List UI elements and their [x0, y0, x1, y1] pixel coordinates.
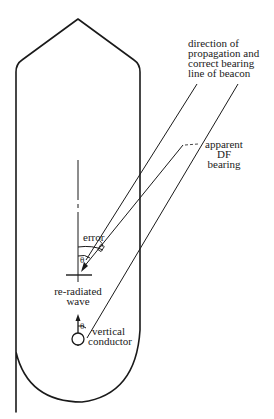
label-theta-lower: θ	[80, 321, 84, 331]
label-reradiated-line2: wave	[48, 296, 108, 306]
label-apparent-df-bearing: apparent DF bearing	[202, 139, 246, 169]
label-conductor-line2: conductor	[88, 336, 132, 346]
label-theta-upper: θ	[80, 255, 84, 265]
label-vertical-conductor: vertical conductor	[88, 326, 132, 346]
vertical-conductor	[72, 333, 84, 345]
label-propagation-line4: line of beacon	[188, 68, 259, 78]
correct-bearing-line-2	[87, 84, 238, 338]
label-apparent-line3: bearing	[202, 159, 246, 169]
apparent-leader	[185, 144, 198, 145]
ship-hull-outline	[17, 19, 140, 103]
label-reradiated-wave: re-radiated wave	[48, 286, 108, 306]
reradiated-arrowhead	[76, 314, 81, 321]
label-error: error	[83, 232, 104, 242]
label-propagation: direction of propagation and correct bea…	[188, 38, 259, 78]
